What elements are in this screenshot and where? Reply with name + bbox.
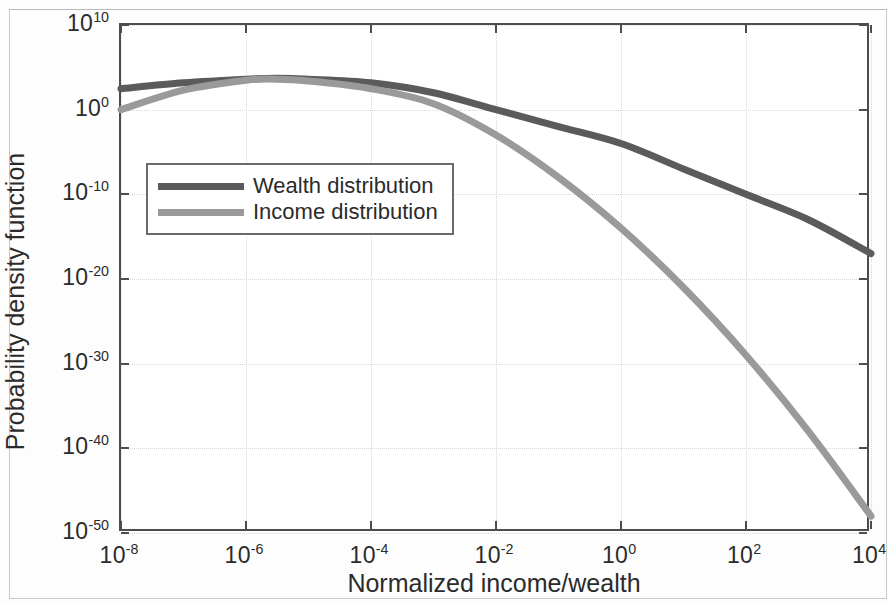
y-tick-label: 10-20 bbox=[62, 263, 109, 291]
data-curves bbox=[121, 25, 871, 533]
legend-item[interactable]: Wealth distribution bbox=[158, 173, 438, 199]
legend-label: Income distribution bbox=[253, 199, 438, 225]
legend-box[interactable]: Wealth distributionIncome distribution bbox=[146, 163, 454, 235]
x-tick-label: 104 bbox=[852, 541, 886, 569]
x-tick-label: 10-8 bbox=[100, 541, 139, 569]
y-tick-label: 10-10 bbox=[62, 179, 109, 207]
y-tick-label: 100 bbox=[75, 94, 109, 122]
y-axis-label: Probability density function bbox=[0, 0, 32, 603]
series-line bbox=[121, 79, 871, 516]
y-tick-label: 10-40 bbox=[62, 433, 109, 461]
y-tick-label: 1010 bbox=[67, 9, 109, 37]
legend-swatch bbox=[158, 209, 244, 216]
x-tick-label: 100 bbox=[602, 541, 636, 569]
legend-item[interactable]: Income distribution bbox=[158, 199, 438, 225]
x-tick-label: 10-2 bbox=[475, 541, 514, 569]
x-tick-label: 10-6 bbox=[225, 541, 264, 569]
legend-swatch bbox=[158, 183, 244, 190]
legend-label: Wealth distribution bbox=[253, 173, 434, 199]
gridline-horizontal bbox=[121, 533, 867, 535]
x-tick-label: 10-4 bbox=[350, 541, 389, 569]
plot-area bbox=[119, 23, 869, 531]
gridline-vertical bbox=[871, 25, 873, 529]
y-tick-label: 10-30 bbox=[62, 348, 109, 376]
x-axis-label: Normalized income/wealth bbox=[119, 569, 869, 598]
x-tick-label: 102 bbox=[727, 541, 761, 569]
chart-figure: Probability density function Normalized … bbox=[0, 0, 889, 603]
